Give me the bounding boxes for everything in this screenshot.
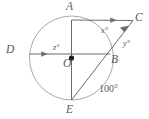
geometry-canvas bbox=[0, 0, 149, 119]
angle-label-y: y° bbox=[123, 40, 130, 48]
point-label-B: B bbox=[111, 54, 118, 66]
angle-label-x: x° bbox=[101, 27, 108, 35]
angle-label-z: z° bbox=[53, 44, 59, 52]
point-label-E: E bbox=[66, 104, 73, 116]
arrowhead-AC-icon bbox=[111, 18, 117, 23]
arc-label-100: 100° bbox=[99, 84, 118, 94]
point-label-C: C bbox=[135, 12, 143, 24]
circle-geometry-figure: A C B D E O x° y° z° 100° bbox=[0, 0, 149, 119]
arrowhead-EC-icon bbox=[120, 26, 128, 32]
point-label-O: O bbox=[63, 58, 71, 70]
point-label-A: A bbox=[66, 1, 73, 13]
point-label-D: D bbox=[6, 44, 14, 56]
arrowhead-DB-icon bbox=[42, 52, 48, 57]
line-A-C bbox=[72, 20, 134, 21]
